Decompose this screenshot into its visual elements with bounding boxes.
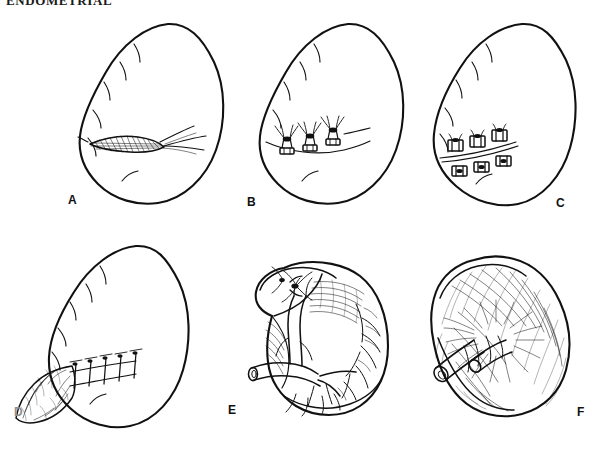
running-header: ENDOMETRIAL [6,0,112,7]
splenic-vessels [249,278,357,406]
laceration-wound [78,126,206,154]
tied-pledget [496,156,511,166]
tied-pledget [470,130,485,147]
panel-c [418,18,598,208]
tied-pledget [452,166,467,176]
pledgeted-suture [275,125,298,154]
mesh-weave [442,266,566,406]
panel-label-c: C [556,197,565,209]
panel-label-e: E [228,404,236,416]
tied-pledget [492,124,507,141]
panel-label-f: F [577,406,584,418]
tied-pledget [448,134,463,151]
panel-b [240,18,420,208]
tied-pledget [474,162,489,172]
panel-e [238,246,418,426]
panel-label-a: A [68,194,77,206]
panel-label-d: D [14,406,23,418]
pledgeted-suture [321,116,344,145]
panel-a [60,18,240,208]
omental-patch [16,366,75,423]
pledgeted-suture [298,122,321,151]
figure-root: ENDOMETRIAL [0,0,604,476]
suture-row [70,349,142,388]
panel-d [10,240,225,435]
panel-label-b: B [247,196,256,208]
panel-f [412,246,597,426]
